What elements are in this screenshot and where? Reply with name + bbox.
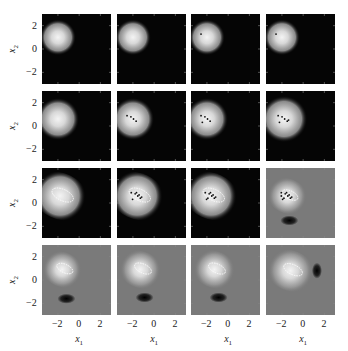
y-tick-label: 2: [32, 21, 37, 31]
x-axis-label: x1: [299, 333, 307, 347]
x-tick-label: 0: [76, 319, 81, 329]
x-tick-label: 2: [321, 319, 326, 329]
x-tick-label: −2: [127, 319, 138, 329]
x-tick-label: 0: [225, 319, 230, 329]
y-tick-label: −2: [26, 144, 37, 154]
y-tick-label: −2: [26, 298, 37, 308]
y-tick-label: −2: [26, 221, 37, 231]
heatmap-panel: [266, 91, 335, 161]
y-axis-label: x2: [6, 199, 20, 207]
heatmap-panel: [191, 168, 260, 238]
y-tick-label: 2: [32, 175, 37, 185]
y-tick-label: 0: [32, 44, 37, 54]
heatmap-panel: [266, 245, 335, 315]
y-tick-label: 2: [32, 98, 37, 108]
heatmap-panel: [117, 14, 186, 84]
heatmap-panel: [117, 91, 186, 161]
heatmap-panel: [42, 245, 111, 315]
y-axis-label: x2: [6, 276, 20, 284]
x-tick-label: 0: [300, 319, 305, 329]
x-tick-label: 2: [172, 319, 177, 329]
heatmap-panel: [191, 91, 260, 161]
y-tick-label: 0: [32, 121, 37, 131]
x-tick-label: 0: [151, 319, 156, 329]
y-tick-label: −2: [26, 67, 37, 77]
heatmap-panel: [117, 245, 186, 315]
x-tick-label: −2: [276, 319, 287, 329]
x-axis-label: x1: [150, 333, 158, 347]
heatmap-panel: [42, 14, 111, 84]
heatmap-panel: [42, 168, 111, 238]
y-axis-label: x2: [6, 45, 20, 53]
x-axis-label: x1: [224, 333, 232, 347]
y-tick-label: 2: [32, 252, 37, 262]
y-tick-label: 0: [32, 275, 37, 285]
heatmap-panel: [266, 168, 335, 238]
x-axis-label: x1: [75, 333, 83, 347]
heatmap-panel: [266, 14, 335, 84]
heatmap-panel: [117, 168, 186, 238]
x-tick-label: 2: [246, 319, 251, 329]
y-axis-label: x2: [6, 122, 20, 130]
y-tick-label: 0: [32, 198, 37, 208]
heatmap-panel: [191, 245, 260, 315]
heatmap-panel: [191, 14, 260, 84]
x-tick-label: −2: [201, 319, 212, 329]
heatmap-panel: [42, 91, 111, 161]
x-tick-label: 2: [97, 319, 102, 329]
x-tick-label: −2: [52, 319, 63, 329]
